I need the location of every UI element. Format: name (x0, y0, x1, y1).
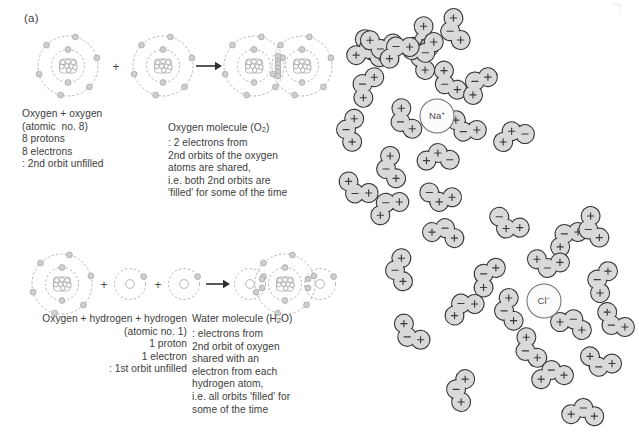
water-molecule (386, 310, 434, 358)
water-molecule (483, 204, 532, 247)
water-molecule (589, 299, 638, 346)
water-molecule (576, 345, 624, 383)
water-molecule (372, 144, 408, 191)
water-molecule (417, 143, 460, 170)
molecule-body (386, 310, 434, 358)
water-molecule (335, 108, 365, 152)
molecule-body (491, 287, 525, 333)
water-molecule (525, 249, 570, 281)
panel-b-hydration-shells: (b) Na+Cl− (330, 0, 639, 432)
water-molecule (581, 257, 620, 305)
water-molecule (491, 287, 525, 333)
sodium-ion: Na+ (420, 99, 454, 133)
water-molecule (561, 397, 605, 427)
molecule-body (589, 299, 638, 346)
water-molecules-and-ions: Na+Cl− (0, 0, 639, 432)
molecule-body (576, 345, 624, 383)
molecule-body (420, 214, 467, 250)
molecule-body (581, 257, 620, 305)
molecule-body (443, 367, 476, 413)
molecule-body (372, 144, 408, 191)
water-molecule (489, 115, 537, 154)
water-molecule (332, 169, 381, 213)
water-molecule (443, 367, 476, 413)
water-molecule (382, 96, 425, 145)
molecule-body (344, 61, 387, 110)
molecule-body (561, 397, 605, 427)
water-molecule (344, 61, 387, 110)
molecule-body (525, 249, 570, 281)
molecule-body (417, 181, 463, 215)
molecule-body (335, 108, 365, 152)
molecule-body (382, 96, 425, 145)
molecule-body (489, 115, 537, 154)
chloride-ion: Cl− (527, 284, 561, 318)
water-molecule (420, 214, 467, 250)
water-molecule (384, 248, 413, 292)
molecule-body (332, 169, 381, 213)
water-molecule (417, 181, 463, 215)
molecule-body (483, 204, 532, 247)
